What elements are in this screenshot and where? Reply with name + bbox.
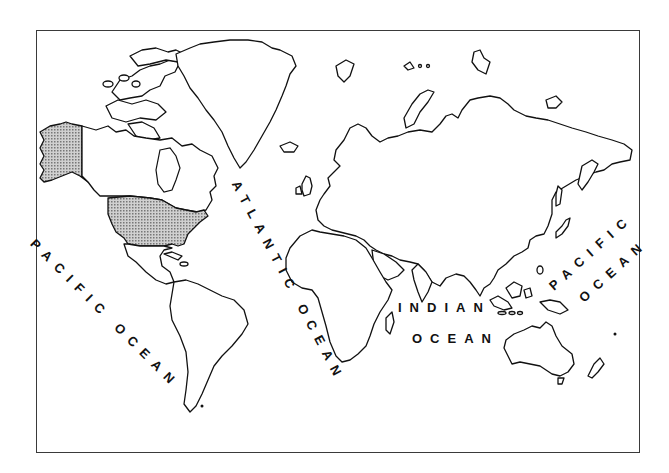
great-britain bbox=[302, 176, 312, 196]
madagascar bbox=[386, 312, 394, 334]
australia bbox=[504, 322, 574, 376]
mexico-central-america bbox=[124, 244, 174, 284]
iceland bbox=[280, 142, 298, 152]
alaska-shaded bbox=[40, 122, 88, 182]
new-zealand bbox=[588, 358, 604, 378]
label-indian-ocean-line2: OCEAN bbox=[412, 331, 499, 346]
svalbard bbox=[336, 60, 354, 82]
label-indian-ocean-line1: INDIAN bbox=[398, 300, 491, 315]
franz-josef-land bbox=[472, 50, 490, 74]
world-map bbox=[0, 0, 669, 473]
severnaya-zemlya bbox=[546, 96, 562, 108]
canadian-arctic-islands bbox=[103, 48, 184, 140]
tasmania bbox=[558, 378, 564, 384]
japan bbox=[556, 218, 570, 238]
sakhalin bbox=[556, 186, 562, 206]
novaya-zemlya bbox=[404, 90, 434, 128]
south-america bbox=[170, 280, 248, 412]
ireland bbox=[296, 186, 302, 194]
